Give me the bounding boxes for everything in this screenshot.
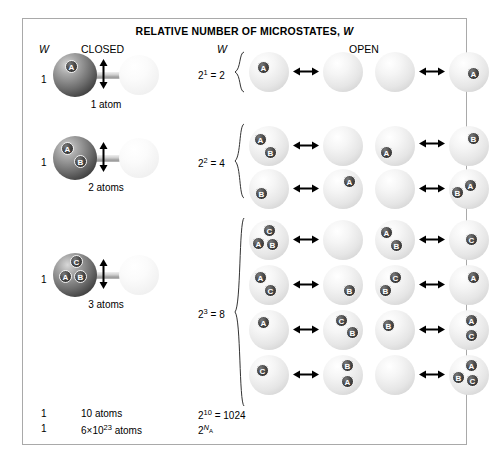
atom-badge-A: A	[464, 179, 477, 192]
atom-badge-A: A	[343, 175, 356, 188]
avogadro-unit: atoms	[112, 425, 142, 436]
horizontal-double-arrow-icon	[419, 67, 445, 76]
horizontal-double-arrow-icon	[293, 370, 319, 379]
open-sphere-left	[375, 52, 415, 92]
avogadro-exponent: 23	[104, 423, 112, 432]
atom-badge-A: A	[380, 226, 393, 239]
brace-group-3	[234, 217, 245, 407]
open-column-header: OPEN	[349, 43, 379, 55]
open-sphere-right	[323, 265, 363, 305]
atom-badge-C: C	[466, 374, 479, 387]
open-sphere-left	[249, 355, 289, 395]
horizontal-double-arrow-icon	[419, 139, 445, 148]
open-sphere-right	[449, 126, 489, 166]
atom-badge-C: C	[335, 314, 348, 327]
open-w-header: W	[217, 43, 227, 55]
open-sphere-right	[323, 220, 363, 260]
summary-row-1-open: 210 = 1024	[198, 408, 246, 421]
open-sphere-right	[449, 265, 489, 305]
closed-row-w-1: 1	[41, 74, 47, 85]
avogadro-mantissa: 6×10	[81, 425, 104, 436]
atom-badge-A: A	[257, 61, 270, 74]
summary-row-2-caption: 6×1023 atoms	[81, 423, 142, 436]
atom-badge-B: B	[382, 319, 395, 332]
closed-caption-2: 2 atoms	[71, 182, 141, 193]
atom-badge-C: C	[465, 233, 478, 246]
atom-badge-A: A	[465, 314, 478, 327]
closed-caption-1: 1 atom	[71, 99, 141, 110]
atom-badge-C: C	[263, 224, 276, 237]
vertical-double-arrow-icon	[99, 142, 108, 172]
atom-badge-A: A	[65, 60, 78, 73]
horizontal-double-arrow-icon	[419, 280, 445, 289]
horizontal-double-arrow-icon	[293, 67, 319, 76]
atom-badge-C: C	[70, 255, 83, 268]
atom-badge-B: B	[452, 371, 465, 384]
open-sphere-left	[375, 310, 415, 350]
atom-badge-A: A	[254, 133, 267, 146]
open-sphere-faded	[119, 255, 159, 295]
summary-row-2-open: 2NA	[198, 423, 213, 436]
figure-title-symbol: W	[343, 25, 353, 37]
atom-badge-A: A	[252, 237, 265, 250]
horizontal-double-arrow-icon	[293, 325, 319, 334]
horizontal-double-arrow-icon	[419, 325, 445, 334]
atom-badge-A: A	[341, 375, 354, 388]
closed-w-header: W	[39, 43, 49, 55]
atom-badge-C: C	[389, 271, 402, 284]
open-sphere-faded	[119, 138, 159, 178]
horizontal-double-arrow-icon	[293, 184, 319, 193]
power-exponent: 10	[204, 408, 212, 417]
power-equals: = 1024	[212, 410, 246, 421]
summary-row-1-caption: 10 atoms	[81, 408, 122, 419]
closed-caption-3: 3 atoms	[71, 299, 141, 310]
open-sphere-left	[249, 310, 289, 350]
horizontal-double-arrow-icon	[419, 370, 445, 379]
open-group-label-2: 22 = 4	[198, 156, 225, 169]
horizontal-double-arrow-icon	[293, 280, 319, 289]
open-group-label-1: 21 = 2	[198, 68, 225, 81]
closed-column-header: CLOSED	[81, 43, 124, 55]
closed-row-w-3: 1	[41, 274, 47, 285]
atom-badge-C: C	[256, 364, 269, 377]
atom-badge-B: B	[74, 155, 87, 168]
vertical-double-arrow-icon	[99, 59, 108, 89]
vertical-double-arrow-icon	[99, 259, 108, 289]
atom-badge-B: B	[264, 146, 277, 159]
closed-row-w-2: 1	[41, 157, 47, 168]
figure-panel: RELATIVE NUMBER OF MICROSTATES, W W CLOS…	[22, 18, 467, 445]
atom-badge-B: B	[379, 284, 392, 297]
power-equals: = 8	[208, 309, 225, 320]
brace-group-1	[234, 51, 245, 93]
atom-badge-A: A	[380, 146, 393, 159]
open-sphere-right	[323, 169, 363, 209]
open-sphere-left	[375, 169, 415, 209]
power-equals: = 4	[208, 158, 225, 169]
open-sphere-left	[375, 126, 415, 166]
atom-badge-B: B	[255, 187, 268, 200]
atom-badge-A: A	[254, 271, 267, 284]
figure-title-text: RELATIVE NUMBER OF MICROSTATES,	[136, 25, 344, 37]
atom-badge-C: C	[465, 329, 478, 342]
atom-badge-B: B	[74, 270, 87, 283]
open-group-label-3: 23 = 8	[198, 307, 225, 320]
atom-badge-B: B	[341, 359, 354, 372]
atom-badge-B: B	[343, 284, 356, 297]
atom-badge-A: A	[59, 270, 72, 283]
atom-badge-B: B	[467, 132, 480, 145]
atom-badge-A: A	[467, 67, 480, 80]
closed-sphere	[53, 53, 97, 97]
summary-row-1-w: 1	[41, 408, 47, 419]
atom-badge-B: B	[451, 186, 464, 199]
atom-badge-A: A	[467, 271, 480, 284]
horizontal-double-arrow-icon	[293, 235, 319, 244]
horizontal-double-arrow-icon	[293, 141, 319, 150]
summary-row-2-w: 1	[41, 423, 47, 434]
atom-badge-A: A	[465, 359, 478, 372]
atom-badge-C: C	[264, 284, 277, 297]
open-sphere-left	[375, 355, 415, 395]
power-equals: = 2	[208, 70, 225, 81]
horizontal-double-arrow-icon	[419, 184, 445, 193]
open-sphere-faded	[119, 55, 159, 95]
power-exponent: NA	[204, 423, 213, 432]
